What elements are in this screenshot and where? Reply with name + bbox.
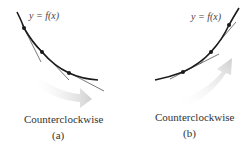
function-label-a: y = f(x) [29,10,59,21]
tangent-point-b3 [227,23,231,27]
rotation-label-b: Counterclockwise [155,111,234,123]
panel-a-graph [17,12,104,108]
function-label-b: y = f(x) [191,11,221,22]
tangent-point-a1 [22,26,26,30]
caption-b: (b) [183,127,196,139]
panel-b-graph [155,8,239,108]
tangent-point-b2 [209,50,213,54]
tangent-point-a2 [40,50,44,54]
curve-a [17,12,98,80]
caption-a: (a) [52,129,64,141]
tangent-point-a3 [67,71,71,75]
rotation-arrow-b [178,58,232,108]
rotation-label-a: Counterclockwise [24,113,103,125]
rotation-arrow-a [30,70,92,108]
tangent-point-b1 [181,70,185,74]
